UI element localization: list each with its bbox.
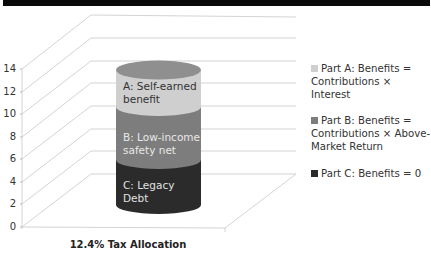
segment-b-label-line2: safety net — [123, 144, 200, 157]
legend-b-line1: Part B: Benefits = — [321, 115, 411, 126]
segment-b-label: B: Low-income safety net — [123, 131, 200, 157]
y-tick-10: 10 — [2, 109, 16, 119]
segment-a-label: A: Self-earned benefit — [123, 80, 197, 106]
segment-b-label-line1: B: Low-income — [123, 131, 200, 144]
segment-a-label-line2: benefit — [123, 93, 197, 106]
legend-item-part-b: Part B: Benefits = Contributions × Above… — [311, 114, 430, 153]
y-tick-8: 8 — [2, 132, 16, 142]
segment-c-label: C: Legacy Debt — [123, 179, 174, 205]
y-tick-14: 14 — [2, 64, 16, 74]
y-tick-2: 2 — [2, 199, 16, 209]
legend-a-line1: Part A: Benefits = — [321, 63, 411, 74]
legend-c-line1: Part C: Benefits = 0 — [321, 168, 421, 179]
legend-item-part-c: Part C: Benefits = 0 — [311, 167, 421, 180]
y-tick-12: 12 — [2, 87, 16, 97]
legend-swatch-b — [311, 117, 318, 124]
cylinder-top — [116, 61, 201, 80]
segment-c-label-line2: Debt — [123, 192, 174, 205]
legend-b-line3: Market Return — [311, 140, 430, 153]
y-tick-0: 0 — [2, 222, 16, 232]
legend-item-part-a: Part A: Benefits = Contributions × Inter… — [311, 62, 431, 101]
legend-a-line2: Contributions × Interest — [311, 75, 431, 101]
y-tick-4: 4 — [2, 177, 16, 187]
x-axis-label: 12.4% Tax Allocation — [68, 239, 188, 250]
legend-swatch-a — [311, 65, 318, 72]
legend-swatch-c — [311, 170, 318, 177]
y-tick-6: 6 — [2, 154, 16, 164]
segment-a-label-line1: A: Self-earned — [123, 80, 197, 93]
segment-c-label-line1: C: Legacy — [123, 179, 174, 192]
legend-b-line2: Contributions × Above- — [311, 127, 430, 140]
